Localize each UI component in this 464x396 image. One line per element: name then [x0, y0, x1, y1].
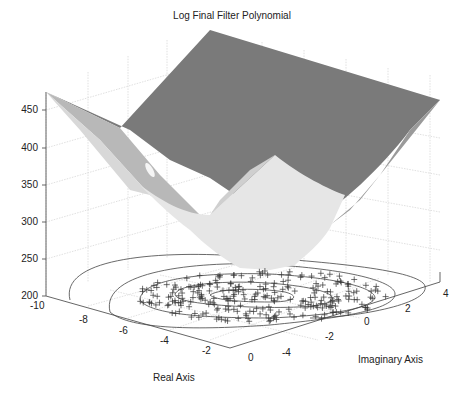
x-tick: -10 [30, 300, 44, 311]
x-tick: -2 [202, 345, 211, 356]
z-tick: 450 [12, 104, 38, 115]
z-tick: 350 [12, 179, 38, 190]
z-tick: 400 [12, 142, 38, 153]
x-tick: -4 [160, 335, 169, 346]
x-tick: -6 [119, 325, 128, 336]
y-tick: 0 [364, 316, 370, 327]
y-axis-label: Imaginary Axis [358, 354, 423, 365]
y-tick: 4 [443, 288, 449, 299]
z-tick: 250 [12, 253, 38, 264]
y-tick: -2 [325, 331, 334, 342]
x-axis-label: Real Axis [153, 372, 195, 383]
figure: Log Final Filter Polynomial [0, 0, 464, 396]
z-tick: 300 [12, 216, 38, 227]
x-tick: 0 [248, 352, 254, 363]
y-tick: -4 [282, 347, 291, 358]
plot-area [0, 0, 464, 396]
x-tick: -8 [79, 314, 88, 325]
y-tick: 2 [405, 303, 411, 314]
